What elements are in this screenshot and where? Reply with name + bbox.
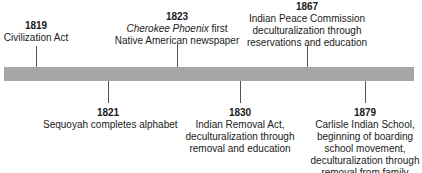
event-1823: 1823 Cherokee Phoenix first Native Ameri…	[107, 11, 247, 47]
event-text: deculturalization through	[185, 131, 295, 143]
event-year: 1830	[185, 107, 295, 119]
newspaper-title: Cherokee Phoenix	[126, 23, 208, 34]
tick-1819	[36, 46, 37, 67]
event-text: beginning of boarding	[310, 131, 420, 143]
event-text: Civilization Act	[0, 32, 76, 44]
event-year: 1867	[242, 1, 372, 13]
event-text-line: Cherokee Phoenix first	[107, 23, 247, 35]
event-1821: 1821 Sequoyah completes alphabet	[43, 107, 173, 131]
event-text: removal from family	[310, 167, 420, 173]
tick-1821	[108, 81, 109, 103]
event-text: Carlisle Indian School,	[310, 119, 420, 131]
event-1867: 1867 Indian Peace Commission deculturali…	[242, 1, 372, 49]
event-text: deculturalization through	[310, 155, 420, 167]
event-1819: 1819 Civilization Act	[0, 20, 76, 44]
event-1830: 1830 Indian Removal Act, deculturalizati…	[185, 107, 295, 155]
event-text: Native American newspaper	[107, 35, 247, 47]
event-text: reservations and education	[242, 37, 372, 49]
event-year: 1819	[0, 20, 76, 32]
event-year: 1821	[43, 107, 173, 119]
event-text: Indian Peace Commission	[242, 13, 372, 25]
event-text: Sequoyah completes alphabet	[43, 119, 173, 131]
event-text: deculturalization through	[242, 25, 372, 37]
timeline-bar	[4, 67, 414, 81]
event-1879: 1879 Carlisle Indian School, beginning o…	[310, 107, 420, 173]
event-year: 1823	[107, 11, 247, 23]
tick-1879	[365, 81, 366, 103]
event-year: 1879	[310, 107, 420, 119]
event-text: Indian Removal Act,	[185, 119, 295, 131]
event-text: removal and education	[185, 143, 295, 155]
tick-1830	[240, 81, 241, 103]
event-text: school movement,	[310, 143, 420, 155]
tick-1823	[177, 44, 178, 67]
